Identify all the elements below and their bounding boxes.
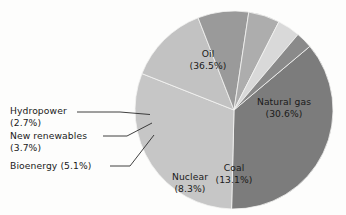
callout-label-new-renewables-name: New renewables xyxy=(10,130,87,141)
slice-label-natural-gas-pct: (30.6%) xyxy=(265,108,302,119)
callout-label-bioenergy: Bioenergy (5.1%) xyxy=(10,160,92,171)
pie-chart-figure: Oil (36.5%) Natural gas (30.6%) Coal (13… xyxy=(0,0,346,215)
pie-chart-svg: Oil (36.5%) Natural gas (30.6%) Coal (13… xyxy=(0,0,346,215)
slice-label-coal-pct: (13.1%) xyxy=(215,174,252,185)
callout-label-hydropower-name: Hydropower xyxy=(10,105,67,116)
slice-label-oil-name: Oil xyxy=(202,48,215,59)
slice-label-natural-gas-name: Natural gas xyxy=(257,96,311,107)
callout-label-hydropower-pct: (2.7%) xyxy=(10,117,41,128)
slice-label-oil-pct: (36.5%) xyxy=(189,60,226,71)
slice-label-nuclear-pct: (8.3%) xyxy=(174,183,205,194)
callout-label-new-renewables-pct: (3.7%) xyxy=(10,142,41,153)
slice-label-coal-name: Coal xyxy=(224,162,245,173)
slice-label-nuclear-name: Nuclear xyxy=(172,171,208,182)
